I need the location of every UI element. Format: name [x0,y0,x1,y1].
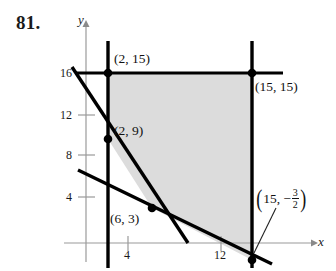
y-tick-label-16: 16 [50,67,72,79]
x-tick-label-4: 4 [124,249,130,261]
y-axis-label: y [78,13,84,26]
frac-label-sep: , − [277,192,291,206]
point-label-15-15: (15, 15) [255,80,298,94]
point-dot-2-15 [104,69,113,78]
point-label-15-neg-three-halves: ( 15 , − 3 2 ) [255,188,308,210]
paren-open: ( [256,189,262,210]
x-tick-label-12: 12 [214,249,226,261]
point-dot-15-neg [248,256,257,265]
paren-close: ) [300,189,306,210]
graph-plot [0,0,336,271]
y-tick-label-4: 4 [50,191,72,203]
point-label-2-15: (2, 15) [114,52,150,66]
figure-container: 81. [0,0,336,271]
y-tick-label-8: 8 [50,149,72,161]
y-tick-label-12: 12 [50,109,72,121]
frac-label-x: 15 [263,192,277,206]
point-dot-15-15 [248,69,257,78]
point-dot-6-3 [148,204,157,213]
fraction-denominator: 2 [292,200,299,210]
callout-leader-line [254,208,276,253]
point-label-2-9: (2, 9) [114,124,143,138]
point-dot-2-9 [104,135,113,144]
fraction-three-halves: 3 2 [292,188,299,210]
fraction-numerator: 3 [292,188,299,198]
x-axis-label: x [318,235,324,248]
point-label-6-3: (6, 3) [110,212,139,226]
